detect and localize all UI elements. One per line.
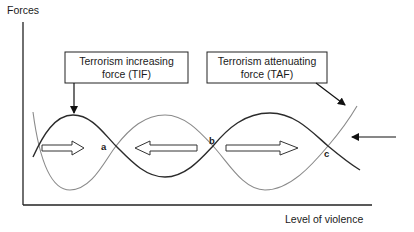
hollow-arrow-right-2: [226, 141, 298, 155]
taf-box: Terrorism attenuating force (TAF): [207, 52, 327, 83]
y-axis-label: Forces: [7, 4, 39, 16]
x-axis-label: Level of violence: [285, 213, 363, 225]
tif-box-line1: Terrorism increasing: [79, 55, 174, 67]
hollow-arrow-right-1: [42, 141, 84, 155]
taf-box-line1: Terrorism attenuating: [218, 55, 317, 67]
tif-box-line2: force (TIF): [102, 68, 151, 80]
hollow-arrow-left: [135, 141, 197, 155]
forces-diagram: Forces Level of violence Terrorism incre…: [0, 0, 414, 232]
point-a-label: a: [101, 141, 107, 152]
taf-pointer-arrow: [316, 83, 345, 105]
taf-box-line2: force (TAF): [241, 68, 293, 80]
tif-box: Terrorism increasing force (TIF): [65, 52, 188, 83]
point-c-label: c: [324, 148, 329, 159]
point-b-label: b: [209, 135, 215, 146]
